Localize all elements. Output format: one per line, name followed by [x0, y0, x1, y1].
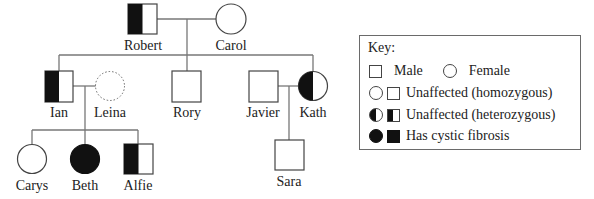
male-square-icon — [369, 65, 382, 78]
label-robert: Robert — [124, 38, 162, 53]
individual-beth — [71, 145, 100, 174]
label-rory: Rory — [173, 105, 201, 120]
key-heterozygous-label: Unaffected (heterozygous) — [406, 107, 555, 123]
label-kath: Kath — [299, 105, 326, 120]
individual-carys — [18, 145, 47, 174]
label-sara: Sara — [277, 174, 303, 189]
half-filled-square-icon — [387, 109, 400, 122]
key-row-sex: Male Female — [369, 63, 510, 79]
individual-sara — [275, 140, 304, 170]
label-beth: Beth — [72, 178, 98, 193]
empty-circle-icon — [369, 86, 383, 100]
empty-square-icon — [387, 87, 400, 100]
label-leina: Leina — [94, 105, 127, 120]
key-homozygous-label: Unaffected (homozygous) — [406, 85, 552, 101]
individual-robert — [128, 4, 157, 34]
label-carol: Carol — [215, 38, 246, 53]
female-circle-icon — [443, 64, 457, 78]
label-carys: Carys — [16, 178, 49, 193]
individual-javier — [249, 71, 278, 102]
filled-circle-icon — [369, 129, 383, 143]
key-row-heterozygous: Unaffected (heterozygous) — [369, 107, 555, 123]
label-javier: Javier — [246, 105, 280, 120]
individual-alfie — [124, 144, 153, 174]
key-row-affected: Has cystic fibrosis — [369, 128, 509, 144]
individual-ian — [45, 71, 73, 102]
key-row-homozygous: Unaffected (homozygous) — [369, 85, 552, 101]
label-ian: Ian — [50, 105, 68, 120]
individual-leina — [96, 72, 125, 101]
key-title: Key: — [368, 40, 395, 56]
individual-carol — [216, 4, 246, 34]
filled-square-icon — [387, 130, 400, 143]
key-male-label: Male — [394, 63, 423, 79]
individual-rory — [172, 71, 201, 102]
key-affected-label: Has cystic fibrosis — [406, 128, 509, 144]
half-filled-circle-icon — [369, 108, 383, 122]
key-female-label: Female — [469, 63, 510, 79]
individual-kath — [299, 72, 328, 101]
label-alfie: Alfie — [124, 178, 153, 193]
key-legend: Key: Male Female Unaffected (homozygous)… — [359, 35, 581, 150]
